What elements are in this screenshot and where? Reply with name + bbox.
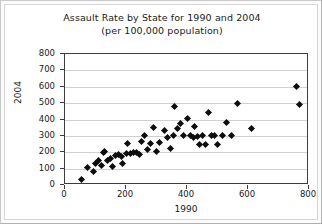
chart-container: Assault Rate by State for 1990 and 2004 …: [0, 0, 322, 224]
y-tick-label: 100: [25, 164, 55, 172]
data-point: [219, 132, 226, 139]
gridline-horizontal: [65, 70, 307, 71]
data-point: [153, 148, 160, 155]
y-tick-label: 400: [25, 115, 55, 123]
x-tick-mark: [125, 185, 126, 189]
chart-title-line1: Assault Rate by State for 1990 and 2004: [63, 12, 261, 23]
y-axis-label: 2004: [13, 81, 23, 104]
data-point: [119, 160, 126, 167]
x-tick-label: 0: [44, 190, 84, 199]
data-point: [183, 115, 190, 122]
x-tick-mark: [308, 185, 309, 189]
y-tick-label: 600: [25, 82, 55, 90]
y-tick-label: 0: [25, 180, 55, 188]
data-point: [156, 139, 163, 146]
data-point: [191, 123, 198, 130]
gridline-horizontal: [65, 87, 307, 88]
x-axis-label: 1990: [64, 204, 308, 214]
y-tick-label: 300: [25, 131, 55, 139]
data-point: [248, 125, 255, 132]
x-tick-mark: [247, 185, 248, 189]
x-tick-label: 200: [105, 190, 145, 199]
data-point: [214, 141, 221, 148]
data-point: [234, 100, 241, 107]
data-point: [199, 132, 206, 139]
data-point: [228, 132, 235, 139]
data-point: [124, 140, 131, 147]
x-tick-label: 600: [227, 190, 267, 199]
gridline-horizontal: [65, 103, 307, 104]
x-tick-label: 800: [288, 190, 322, 199]
x-tick-label: 400: [166, 190, 206, 199]
y-tick-label: 200: [25, 147, 55, 155]
data-point: [205, 109, 212, 116]
x-tick-mark: [186, 185, 187, 189]
chart-subtitle: (per 100,000 population): [5, 25, 319, 38]
data-point: [150, 124, 157, 131]
y-tick-label: 500: [25, 98, 55, 106]
x-tick-mark: [64, 185, 65, 189]
data-point: [202, 141, 209, 148]
data-point: [293, 83, 300, 90]
y-tick-label: 700: [25, 65, 55, 73]
data-point: [78, 176, 85, 183]
chart-plot-panel: Assault Rate by State for 1990 and 2004 …: [4, 4, 318, 220]
y-tick-label: 800: [25, 49, 55, 57]
chart-title: Assault Rate by State for 1990 and 2004 …: [5, 12, 319, 37]
scatter-plot-area: [64, 53, 308, 184]
